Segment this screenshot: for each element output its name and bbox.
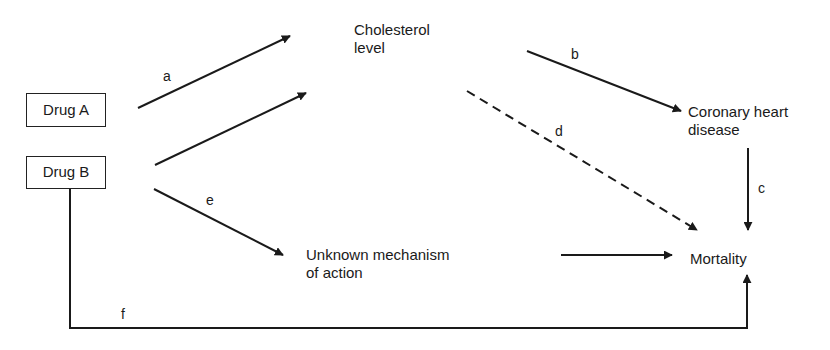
node-chd-line1: Coronary heart [688,103,788,121]
edge-label-e: e [206,192,214,208]
node-drug-b: Drug B [26,156,106,189]
node-mortality: Mortality [690,250,747,268]
node-unknown-line1: Unknown mechanism [306,246,449,264]
edge-b-arrow [527,51,681,111]
node-drug-a-label: Drug A [43,101,89,118]
edge-e-arrow [154,189,283,255]
edge-label-f: f [121,306,125,322]
edge-label-c: c [758,180,765,196]
edge-label-a: a [163,68,171,84]
edge-label-b: b [571,46,579,62]
edge-drugb-cholesterol-arrow [155,93,306,165]
edge-a-arrow [138,36,290,108]
causal-diagram: Drug A Drug B Cholesterol level Coronary… [0,0,830,350]
node-drug-b-label: Drug B [43,163,90,180]
node-cholesterol-line2: level [354,39,430,57]
node-drug-a: Drug A [26,93,106,127]
node-chd-line2: disease [688,121,788,139]
node-coronary-heart-disease: Coronary heart disease [688,103,788,139]
node-unknown-line2: of action [306,264,449,282]
edge-d-dashed-arrow [467,91,697,230]
node-cholesterol-level: Cholesterol level [354,21,430,57]
node-mortality-label: Mortality [690,250,747,267]
node-cholesterol-line1: Cholesterol [354,21,430,39]
node-unknown-mechanism: Unknown mechanism of action [306,246,449,282]
edge-label-d: d [555,123,563,139]
